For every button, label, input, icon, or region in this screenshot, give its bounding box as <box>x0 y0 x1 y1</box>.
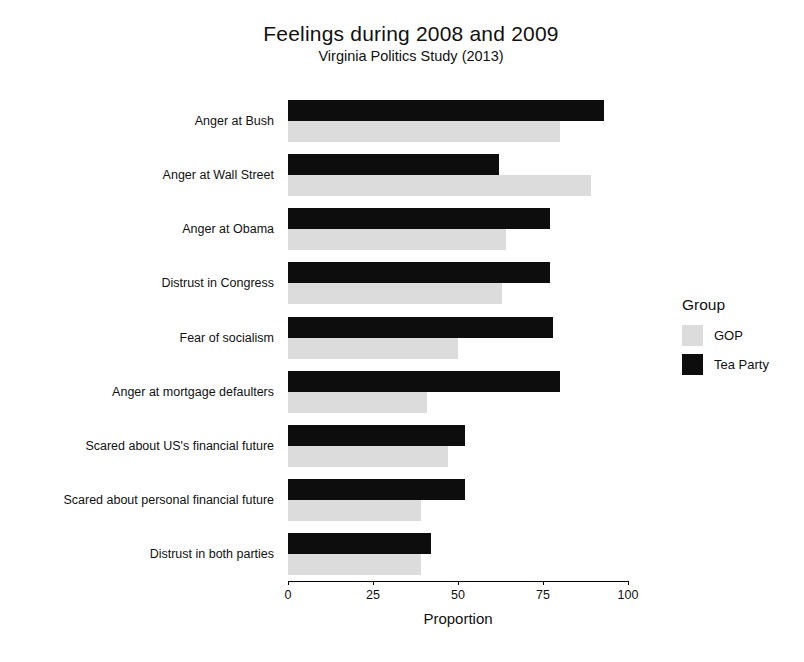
bar-tea-party <box>288 479 465 500</box>
bar-gop <box>288 121 560 142</box>
chart-title: Feelings during 2008 and 2009 <box>0 22 804 46</box>
category-label: Anger at Wall Street <box>163 168 274 182</box>
plot-area: 0255075100 Proportion Anger at BushAnger… <box>288 94 628 581</box>
bar-gop <box>288 175 591 196</box>
legend-swatch-icon <box>682 354 703 375</box>
category-label: Scared about personal financial future <box>63 493 274 507</box>
bar-gop <box>288 283 502 304</box>
legend-item[interactable]: GOP <box>682 325 769 346</box>
bar-tea-party <box>288 371 560 392</box>
x-tick-label: 25 <box>366 588 380 602</box>
category-label: Distrust in Congress <box>161 276 274 290</box>
bar-group: Distrust in both parties <box>288 533 628 575</box>
x-tick-mark <box>628 581 629 585</box>
x-tick-mark <box>373 581 374 585</box>
bar-tea-party <box>288 425 465 446</box>
bar-group: Anger at mortgage defaulters <box>288 371 628 413</box>
bar-gop <box>288 554 421 575</box>
bar-group: Anger at Wall Street <box>288 154 628 196</box>
category-label: Distrust in both parties <box>150 547 274 561</box>
bar-gop <box>288 229 506 250</box>
category-label: Anger at Obama <box>182 222 274 236</box>
bar-tea-party <box>288 100 604 121</box>
legend-label: GOP <box>714 328 743 343</box>
legend-title: Group <box>682 296 769 314</box>
x-tick-label: 75 <box>536 588 550 602</box>
bar-tea-party <box>288 208 550 229</box>
x-tick-mark <box>458 581 459 585</box>
x-tick-label: 50 <box>451 588 465 602</box>
legend: Group GOPTea Party <box>682 296 769 383</box>
bar-group: Fear of socialism <box>288 317 628 359</box>
bar-group: Scared about personal financial future <box>288 479 628 521</box>
category-label: Scared about US's financial future <box>85 439 274 453</box>
x-axis-title: Proportion <box>288 610 628 627</box>
x-tick-label: 100 <box>618 588 639 602</box>
chart-container: Feelings during 2008 and 2009 Virginia P… <box>0 0 804 662</box>
legend-item[interactable]: Tea Party <box>682 354 769 375</box>
bar-gop <box>288 500 421 521</box>
x-tick-mark <box>543 581 544 585</box>
bar-gop <box>288 446 448 467</box>
bar-group: Anger at Obama <box>288 208 628 250</box>
category-label: Anger at Bush <box>195 114 274 128</box>
chart-title-block: Feelings during 2008 and 2009 Virginia P… <box>0 22 804 66</box>
category-label: Fear of socialism <box>180 331 274 345</box>
bar-tea-party <box>288 262 550 283</box>
bar-group: Distrust in Congress <box>288 262 628 304</box>
legend-items: GOPTea Party <box>682 325 769 375</box>
bar-tea-party <box>288 533 431 554</box>
bar-gop <box>288 392 427 413</box>
x-tick-label: 0 <box>285 588 292 602</box>
legend-swatch-icon <box>682 325 703 346</box>
legend-label: Tea Party <box>714 357 769 372</box>
chart-subtitle: Virginia Politics Study (2013) <box>0 48 804 65</box>
bar-group: Anger at Bush <box>288 100 628 142</box>
x-tick-mark <box>288 581 289 585</box>
bar-group: Scared about US's financial future <box>288 425 628 467</box>
bar-tea-party <box>288 154 499 175</box>
bar-tea-party <box>288 317 553 338</box>
bar-gop <box>288 338 458 359</box>
category-label: Anger at mortgage defaulters <box>112 385 274 399</box>
